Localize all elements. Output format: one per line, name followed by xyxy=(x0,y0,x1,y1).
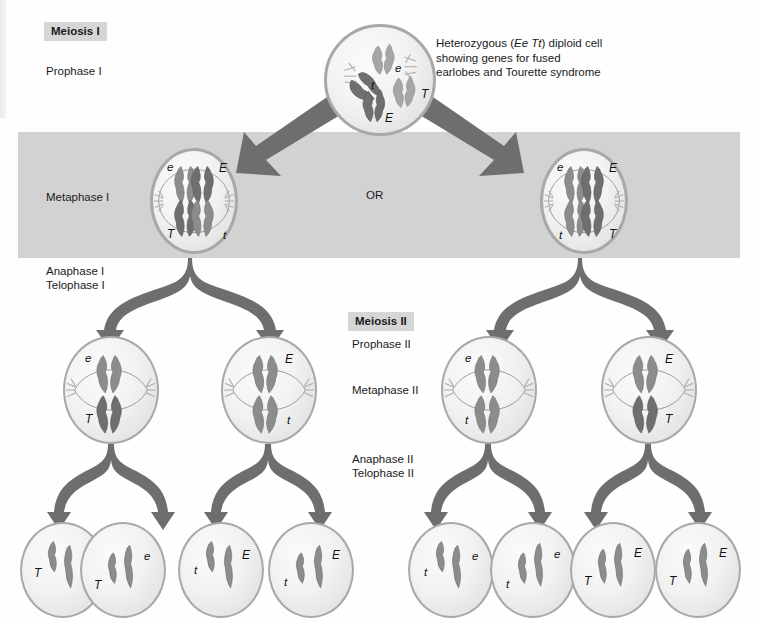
chromosome-pair-bottom xyxy=(565,200,604,236)
arrow-fork-gametes-1-2 xyxy=(47,444,175,530)
callout-line1-post: ) diploid cell xyxy=(541,37,602,49)
gamete-2: T e xyxy=(80,522,166,618)
aster-right xyxy=(405,54,417,78)
label-meiosis-ii: Meiosis II xyxy=(348,312,414,331)
allele-right: E xyxy=(332,548,340,562)
chromosome-left xyxy=(108,553,116,584)
gamete-4: t E xyxy=(268,522,354,618)
metaphase-ii-cell-3: e t xyxy=(441,336,537,444)
chromosome-t xyxy=(253,396,277,433)
gamete-4-contents xyxy=(270,524,352,616)
label-or: OR xyxy=(366,188,383,202)
allele-top-right: E xyxy=(609,161,617,175)
meiosis-diagram: Meiosis I Prophase I Metaphase I OR Anap… xyxy=(0,0,761,623)
aster-right xyxy=(684,379,694,397)
label-anaphase-ii: Anaphase II xyxy=(352,452,413,466)
chromosome-T xyxy=(97,396,121,433)
metaphase-ii-cell-1-contents xyxy=(65,338,157,442)
allele-T-prophase: T xyxy=(421,87,428,101)
callout-line-1: Heterozygous (Ee Tt) diploid cell xyxy=(436,36,736,51)
gamete-6: t e xyxy=(490,522,576,618)
metaphase-ii-cell-4: E T xyxy=(601,336,697,444)
allele-bottom-right: t xyxy=(223,229,226,241)
chromosome-left xyxy=(296,553,304,584)
allele-bottom-left: t xyxy=(559,229,562,241)
allele-bottom: T xyxy=(85,412,92,426)
gamete-5: t e xyxy=(408,522,494,618)
gamete-3-contents xyxy=(180,524,262,616)
allele-right: E xyxy=(634,546,642,560)
allele-right: E xyxy=(242,548,250,562)
allele-left: t xyxy=(506,578,509,590)
gamete-8: T E xyxy=(655,522,741,618)
chromosome-left xyxy=(518,553,526,584)
allele-left: T xyxy=(584,574,591,588)
chromosome-right xyxy=(699,543,707,586)
allele-top: e xyxy=(465,352,471,364)
allele-left: t xyxy=(194,564,197,576)
chromatid-t xyxy=(191,200,213,236)
label-telophase-i: Telophase I xyxy=(46,278,105,292)
allele-right: e xyxy=(144,550,150,562)
chromosome-pair-bottom xyxy=(175,200,214,236)
arrow-fork-gametes-7-8 xyxy=(584,444,712,530)
callout-line-3: earlobes and Tourette syndrome xyxy=(436,65,736,80)
chromosome-T xyxy=(393,76,415,107)
arrow-fork-left-meiosis-i xyxy=(96,258,284,350)
chromosome-left xyxy=(206,541,214,572)
prophase-i-contents xyxy=(327,27,433,133)
arrow-fork-gametes-5-6 xyxy=(424,444,552,530)
label-prophase-ii: Prophase II xyxy=(352,337,411,351)
allele-left: T xyxy=(669,574,676,588)
aster-left xyxy=(66,379,76,397)
chromosome-e xyxy=(97,356,121,393)
label-telophase-ii: Telophase II xyxy=(352,466,414,480)
gamete-5-contents xyxy=(410,524,492,616)
aster-left xyxy=(604,379,614,397)
aster-left xyxy=(544,191,553,212)
allele-top: e xyxy=(85,352,91,364)
allele-left: t xyxy=(284,576,287,588)
allele-left: T xyxy=(94,578,101,592)
chromatid-T xyxy=(581,200,603,236)
chromosome-right xyxy=(224,545,232,588)
allele-top: E xyxy=(285,352,293,366)
chromosome-left xyxy=(598,549,606,583)
allele-bottom: t xyxy=(287,414,290,426)
allele-e-prophase: e xyxy=(395,62,401,74)
prophase-i-cell: e t T E xyxy=(324,24,436,136)
metaphase-ii-cell-1: e T xyxy=(63,336,159,444)
chromosome-E xyxy=(253,356,277,393)
callout-line1-pre: Heterozygous ( xyxy=(436,37,514,49)
chromosome-E xyxy=(633,356,657,393)
chromosome-pair-top xyxy=(175,167,214,203)
chromosome-left xyxy=(48,541,56,572)
aster-left xyxy=(224,379,234,397)
gamete-7: T E xyxy=(570,522,656,618)
allele-bottom: t xyxy=(465,414,468,426)
metaphase-ii-cell-2-contents xyxy=(223,338,315,442)
label-prophase-i: Prophase I xyxy=(46,64,102,78)
allele-bottom: T xyxy=(665,412,672,426)
chromosome-E xyxy=(363,89,385,121)
chromatid-E xyxy=(191,167,213,203)
chromosome-e xyxy=(372,44,394,74)
label-anaphase-i: Anaphase I xyxy=(46,264,104,278)
metaphase-ii-cell-4-contents xyxy=(603,338,695,442)
allele-left: t xyxy=(424,566,427,578)
chromosome-right xyxy=(124,545,132,588)
chromosome-right xyxy=(314,545,322,588)
allele-left: T xyxy=(34,566,41,580)
chromosome-left xyxy=(436,541,444,572)
arrow-fork-gametes-3-4 xyxy=(204,444,332,530)
metaphase-ii-cell-2: E t xyxy=(221,336,317,444)
allele-bottom-right: T xyxy=(609,227,616,241)
label-metaphase-ii: Metaphase II xyxy=(352,383,418,397)
allele-bottom-left: T xyxy=(167,227,174,241)
allele-top-left: e xyxy=(557,161,563,173)
chromosome-t xyxy=(475,396,499,433)
gamete-2-contents xyxy=(82,524,164,616)
allele-E-prophase: E xyxy=(385,111,393,125)
allele-right: E xyxy=(719,546,727,560)
allele-right: e xyxy=(472,550,478,562)
